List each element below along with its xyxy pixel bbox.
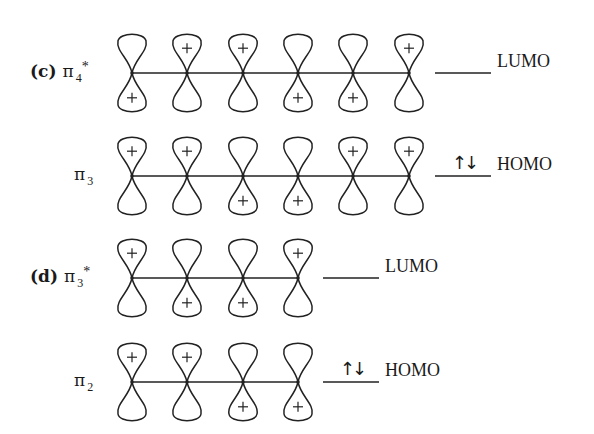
plus-sign-icon [238,298,248,308]
top-lobe [229,239,257,278]
atom-node [130,174,134,178]
atom-node [351,71,355,75]
plus-sign-icon [127,93,137,103]
orbital-row-c-pi3 [118,137,491,215]
plus-sign-icon [293,196,303,206]
top-lobe [339,34,367,73]
top-lobe [173,239,201,278]
orbital-symbol: π [62,61,73,81]
top-lobe [284,34,312,73]
atom-node [296,276,300,280]
bottom-lobe [229,382,257,421]
bottom-lobe [284,278,312,317]
top-lobe [284,239,312,278]
atom-node [130,380,134,384]
plus-sign-icon [182,298,192,308]
part-label: (d) [30,266,58,286]
bottom-lobe [173,278,201,317]
top-lobe [173,343,201,382]
atom-node [185,174,189,178]
bottom-lobe [118,73,146,112]
bottom-lobe [173,176,201,215]
top-lobe [284,137,312,176]
plus-sign-icon [127,352,137,362]
bottom-lobe [339,176,367,215]
orbital-label: π2 [66,372,93,389]
frontier-orbital-label: HOMO [385,361,440,379]
plus-sign-icon [182,146,192,156]
bottom-lobe [173,73,201,112]
atom-node [130,71,134,75]
bottom-lobe [339,73,367,112]
plus-sign-icon [293,93,303,103]
bottom-lobe [118,176,146,215]
atom-node [241,380,245,384]
top-lobe [339,137,367,176]
top-lobe [395,34,423,73]
orbital-symbol: π [64,266,75,286]
orbital-row-d-pi2 [118,343,379,421]
atom-node [130,276,134,280]
top-lobe [173,137,201,176]
bottom-lobe [229,176,257,215]
top-lobe [395,137,423,176]
atom-node [185,71,189,75]
orbital-subscript: 3 [87,174,93,188]
bottom-lobe [229,278,257,317]
electron-pair-arrows-icon: ↑↓ [452,154,476,172]
bottom-lobe [118,278,146,317]
atom-node [407,71,411,75]
plus-sign-icon [182,352,192,362]
atom-node [296,380,300,384]
plus-sign-icon [238,196,248,206]
atom-node [241,174,245,178]
orbital-subscript: 2 [87,380,93,394]
orbital-row-d-pi3-star [118,239,379,317]
atom-node [185,276,189,280]
bottom-lobe [118,382,146,421]
plus-sign-icon [348,93,358,103]
orbital-subscript: 4 [76,71,82,85]
top-lobe [284,343,312,382]
part-label: (c) [30,61,56,81]
antibonding-star: * [83,264,90,279]
top-lobe [229,137,257,176]
orbital-label: (d)π3* [30,268,90,285]
plus-sign-icon [238,402,248,412]
orbital-symbol: π [74,370,85,390]
plus-sign-icon [404,146,414,156]
top-lobe [229,34,257,73]
top-lobe [118,137,146,176]
bottom-lobe [173,382,201,421]
orbital-symbol: π [74,164,85,184]
atom-node [241,71,245,75]
atom-node [351,174,355,178]
frontier-orbital-label: HOMO [497,155,552,173]
bottom-lobe [395,73,423,112]
bottom-lobe [284,73,312,112]
plus-sign-icon [182,43,192,53]
atom-node [407,174,411,178]
top-lobe [229,343,257,382]
bottom-lobe [284,176,312,215]
top-lobe [118,239,146,278]
atom-node [185,380,189,384]
frontier-orbital-label: LUMO [497,52,550,70]
atom-node [296,71,300,75]
plus-sign-icon [404,43,414,53]
orbital-label: (c)π4* [30,63,89,80]
antibonding-star: * [82,59,89,74]
plus-sign-icon [238,43,248,53]
bottom-lobe [284,382,312,421]
atom-node [241,276,245,280]
orbital-row-c-pi4-star [118,34,491,112]
top-lobe [118,343,146,382]
orbital-label: π3 [66,166,93,183]
top-lobe [118,34,146,73]
top-lobe [173,34,201,73]
plus-sign-icon [127,248,137,258]
plus-sign-icon [293,248,303,258]
plus-sign-icon [127,146,137,156]
plus-sign-icon [348,146,358,156]
bottom-lobe [229,73,257,112]
